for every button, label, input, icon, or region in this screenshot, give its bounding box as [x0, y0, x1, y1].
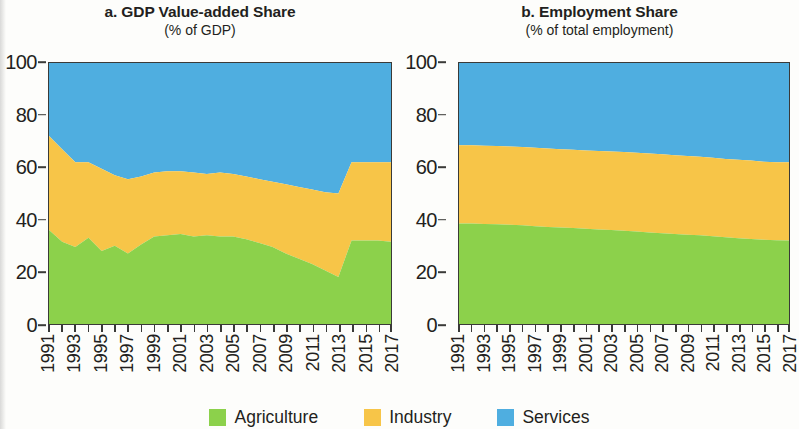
x-axis-label-b-2003: 2003 — [602, 334, 620, 373]
legend-swatch-industry-icon — [364, 409, 381, 426]
x-tick-mark-a-2008 — [273, 325, 275, 332]
x-tick-mark-b-2010 — [701, 325, 703, 332]
x-axis-label-b-2015: 2015 — [755, 334, 773, 373]
x-axis-label-b-2001: 2001 — [577, 334, 595, 373]
x-tick-mark-b-2005 — [637, 325, 639, 332]
x-tick-mark-b-2007 — [662, 325, 664, 332]
legend-label-industry: Industry — [389, 408, 451, 426]
y-tick-mark-b-40 — [438, 219, 446, 221]
x-axis-label-a-2007: 2007 — [251, 334, 269, 373]
x-tick-mark-a-2009 — [286, 325, 288, 332]
x-axis-label-a-1995: 1995 — [92, 334, 110, 373]
x-axis-label-a-2003: 2003 — [198, 334, 216, 373]
x-tick-mark-b-1992 — [471, 325, 473, 332]
chart-legend: AgricultureIndustryServices — [0, 408, 799, 426]
x-tick-mark-a-2006 — [246, 325, 248, 332]
x-tick-mark-a-2015 — [366, 325, 368, 332]
x-axis-labels-b: 1991199319951997199920012003200520072009… — [458, 334, 790, 404]
x-axis-label-b-1993: 1993 — [475, 334, 493, 373]
x-axis-ticks-b — [458, 325, 790, 333]
y-axis-b: 020406080100 — [400, 62, 446, 325]
x-tick-mark-b-1994 — [496, 325, 498, 332]
y-tick-label-a-20: 20 — [16, 262, 37, 282]
y-tick-label-b-60: 60 — [416, 157, 437, 177]
x-axis-label-a-2015: 2015 — [357, 334, 375, 373]
y-tick-label-b-40: 40 — [416, 210, 437, 230]
x-tick-mark-b-2006 — [650, 325, 652, 332]
y-tick-mark-a-60 — [38, 166, 46, 168]
x-tick-mark-a-2002 — [194, 325, 196, 332]
x-tick-mark-b-2003 — [611, 325, 613, 332]
x-tick-mark-b-2011 — [713, 325, 715, 332]
x-tick-mark-a-2001 — [180, 325, 182, 332]
x-tick-mark-b-2004 — [624, 325, 626, 332]
x-axis-label-a-2017: 2017 — [383, 334, 401, 373]
legend-swatch-agriculture-icon — [209, 409, 226, 426]
x-tick-mark-a-1995 — [101, 325, 103, 332]
x-axis-label-b-2005: 2005 — [628, 334, 646, 373]
x-tick-mark-b-2017 — [788, 325, 790, 332]
x-tick-mark-a-1991 — [48, 325, 50, 332]
x-tick-mark-b-2002 — [598, 325, 600, 332]
y-tick-label-a-40: 40 — [16, 210, 37, 230]
y-tick-mark-a-100 — [38, 61, 46, 63]
legend-item-services[interactable]: Services — [497, 408, 589, 426]
y-axis-a: 020406080100 — [0, 62, 46, 325]
x-axis-label-a-2011: 2011 — [304, 334, 322, 372]
x-axis-label-a-1993: 1993 — [65, 334, 83, 373]
x-axis-label-a-1997: 1997 — [118, 334, 136, 373]
x-tick-mark-a-2005 — [233, 325, 235, 332]
y-tick-mark-b-100 — [438, 61, 446, 63]
plot-frame-a — [48, 62, 392, 325]
y-tick-mark-a-20 — [38, 272, 46, 274]
x-tick-mark-b-1991 — [458, 325, 460, 332]
x-axis-label-b-2009: 2009 — [679, 334, 697, 373]
y-tick-mark-a-40 — [38, 219, 46, 221]
plot-area-b: 020406080100 199119931995199719992001200… — [458, 62, 790, 325]
y-tick-label-b-80: 80 — [416, 105, 437, 125]
agriculture-area — [459, 224, 789, 324]
x-tick-mark-b-2012 — [726, 325, 728, 332]
x-axis-label-a-2005: 2005 — [224, 334, 242, 373]
x-tick-mark-a-1993 — [74, 325, 76, 332]
x-tick-mark-b-2016 — [777, 325, 779, 332]
x-axis-label-a-2001: 2001 — [171, 334, 189, 373]
x-axis-label-a-1999: 1999 — [145, 334, 163, 373]
x-axis-label-b-1999: 1999 — [551, 334, 569, 373]
y-tick-mark-b-20 — [438, 272, 446, 274]
y-tick-mark-b-80 — [438, 114, 446, 116]
y-tick-mark-a-80 — [38, 114, 46, 116]
x-tick-mark-b-1999 — [560, 325, 562, 332]
legend-label-agriculture: Agriculture — [234, 408, 318, 426]
y-tick-mark-b-0 — [438, 324, 446, 326]
x-tick-mark-b-1998 — [547, 325, 549, 332]
x-tick-mark-b-2000 — [573, 325, 575, 332]
x-axis-label-a-2013: 2013 — [330, 334, 348, 373]
legend-item-industry[interactable]: Industry — [364, 408, 451, 426]
x-tick-mark-a-2000 — [167, 325, 169, 332]
x-axis-label-b-2013: 2013 — [730, 334, 748, 373]
plot-frame-b — [458, 62, 790, 325]
x-axis-label-a-2009: 2009 — [277, 334, 295, 373]
x-tick-mark-b-2015 — [764, 325, 766, 332]
x-tick-mark-b-2008 — [675, 325, 677, 332]
x-tick-mark-a-1998 — [141, 325, 143, 332]
x-tick-mark-b-2013 — [739, 325, 741, 332]
legend-item-agriculture[interactable]: Agriculture — [209, 408, 318, 426]
panel-b-title: b. Employment Share — [400, 2, 799, 21]
x-tick-mark-b-2014 — [752, 325, 754, 332]
x-tick-mark-a-1997 — [127, 325, 129, 332]
legend-label-services: Services — [522, 408, 589, 426]
x-tick-mark-a-2004 — [220, 325, 222, 332]
stacked-area-chart-b — [459, 63, 789, 324]
x-axis-label-b-2011: 2011 — [704, 334, 722, 372]
figure-root: a. GDP Value-added Share (% of GDP) 0204… — [0, 0, 799, 429]
x-tick-mark-a-2014 — [352, 325, 354, 332]
panel-employment-share: b. Employment Share (% of total employme… — [400, 0, 799, 400]
panel-a-title: a. GDP Value-added Share — [0, 2, 400, 21]
y-tick-label-a-100: 100 — [5, 52, 37, 72]
x-axis-label-a-1991: 1991 — [39, 334, 57, 373]
x-tick-mark-a-2007 — [260, 325, 262, 332]
x-tick-mark-b-1996 — [522, 325, 524, 332]
x-tick-mark-a-1996 — [114, 325, 116, 332]
